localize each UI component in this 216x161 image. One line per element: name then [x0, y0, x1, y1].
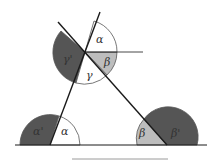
label-top-gamma: γ [86, 69, 93, 82]
label-left-alpha: α [61, 125, 69, 138]
right-vertex-angles [136, 107, 198, 145]
label-top-alpha: α [96, 33, 104, 46]
triangle-angle-diagram: α β γ γ' α' α β β' [0, 0, 216, 161]
label-top-beta: β [103, 56, 110, 69]
label-top-gamma-prime: γ' [63, 53, 73, 66]
label-left-alpha-prime: α' [33, 125, 43, 138]
left-vertex-angles [20, 115, 80, 145]
label-right-beta: β [138, 127, 145, 140]
label-right-beta-prime: β' [170, 127, 180, 140]
